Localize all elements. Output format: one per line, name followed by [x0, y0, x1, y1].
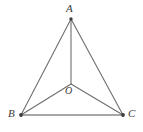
vertex-label-b: B [8, 108, 15, 119]
vertex-dot-a [69, 17, 72, 20]
vertex-dot-c [121, 113, 125, 117]
vertex-dot-b [19, 113, 23, 117]
vertex-label-o: O [65, 86, 72, 96]
vertex-label-a: A [66, 3, 73, 14]
segment-ac [71, 19, 123, 115]
geometry-figure: A B C O [0, 0, 143, 132]
segment-ab [21, 19, 71, 115]
geometry-canvas [0, 0, 143, 132]
vertex-label-c: C [128, 108, 135, 119]
